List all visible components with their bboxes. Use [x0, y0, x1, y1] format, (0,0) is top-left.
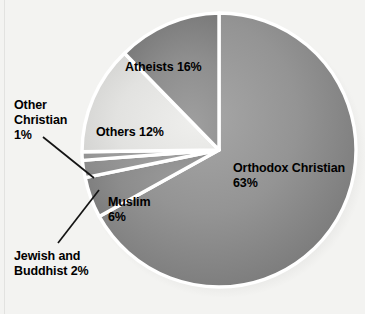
slice-label-jewish-and-buddhist: Jewish and Buddhist 2% — [14, 249, 124, 279]
leader-line-jewish-buddhist — [58, 190, 99, 243]
slice-label-atheists: Atheists 16% — [125, 60, 237, 75]
slice-label-other-christian: Other Christian 1% — [14, 98, 100, 142]
slice-label-others: Others 12% — [96, 125, 196, 140]
slice-label-orthodox-christian: Orthodox Christian 63% — [233, 161, 358, 191]
slice-label-muslim: Muslim 6% — [108, 195, 178, 225]
pie-slices — [82, 13, 356, 287]
pie-chart: Orthodox Christian 63% Atheists 16% Othe… — [0, 0, 365, 314]
